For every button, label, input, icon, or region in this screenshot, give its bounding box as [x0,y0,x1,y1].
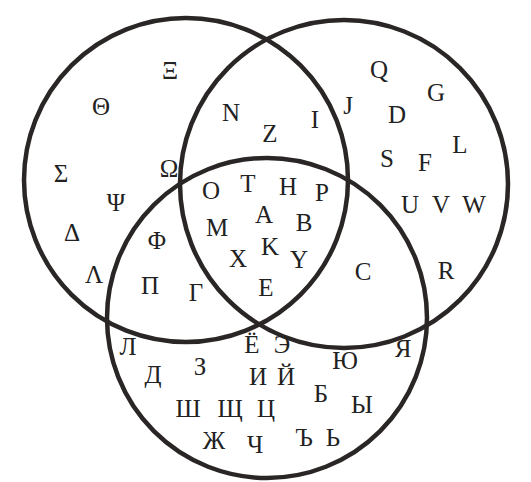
letter-label: G [427,79,445,106]
letter-label: Λ [85,261,103,288]
letter-label: F [418,149,432,176]
letter-label: Q [370,56,388,83]
letter-label: Ц [257,395,275,422]
letter-label: Γ [189,279,203,306]
letter-label: Ш [175,395,200,422]
letter-label: H [279,173,297,200]
letter-label: Д [144,361,161,388]
region-right-only: QGJDLSFUVWR [343,56,486,284]
letter-label: Щ [217,395,242,422]
letter-label: X [229,245,247,272]
letter-label: Л [120,333,137,360]
letter-label: O [202,177,220,204]
letter-label: Ω [160,155,179,182]
letter-label: Σ [54,160,69,187]
letter-label: Ж [203,427,226,454]
letter-label: T [240,170,255,197]
venn-diagram: ΞΘΣΩΨΔΛQGJDLSFUVWRЛДЗШЩЖЧИЙЦЭЮЯБЫЪЬNZIΦΠ… [0,0,531,482]
letter-label: S [380,145,394,172]
letter-label: Я [395,335,412,362]
letter-label: Δ [64,219,80,246]
letter-label: K [261,233,279,260]
letter-label: W [462,191,486,218]
letter-label: И [249,363,267,390]
letter-label: Φ [148,227,166,254]
letter-label: A [255,201,273,228]
letter-label: Б [314,380,328,407]
letter-label: M [206,214,228,241]
letter-label: I [311,106,319,133]
letter-label: D [388,101,406,128]
letter-label: Э [274,331,291,358]
letter-label: Ю [332,347,358,374]
region-right-bottom: C [355,258,372,285]
letter-label: Z [262,120,277,147]
letter-label: Ъ [295,424,313,451]
letter-label: Ы [351,391,373,418]
region-left-bottom: ΦΠΓ [141,227,203,306]
letter-label: Y [290,246,308,273]
letter-label: Π [141,272,159,299]
region-left-right: NZI [222,99,319,147]
letter-label: Ч [247,431,263,458]
letter-label: Θ [92,93,110,120]
circle-right-latin [180,20,508,348]
letter-label: Ь [326,424,340,451]
letter-label: N [222,99,240,126]
letter-label: B [296,209,313,236]
letter-label: R [438,257,455,284]
letter-label: E [258,274,273,301]
letter-label: P [315,179,329,206]
letter-label: J [343,92,353,119]
letter-label: L [452,131,467,158]
letter-label: Й [277,363,295,390]
letter-label: V [432,191,450,218]
letter-label: Ψ [107,189,126,216]
letter-label: U [401,191,419,218]
letter-label: C [355,258,372,285]
letter-label: З [194,353,207,380]
letter-label: Ξ [162,57,178,84]
letter-label: Ё [244,331,259,358]
